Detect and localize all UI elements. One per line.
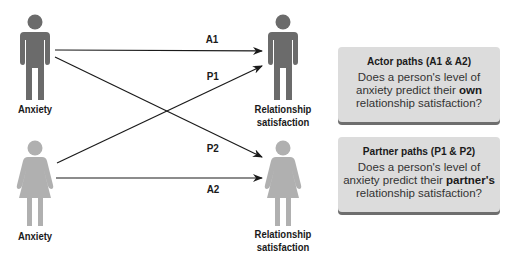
actor-box-body: Does a person's level of anxiety predict… bbox=[338, 71, 500, 110]
path-label-p2: P2 bbox=[207, 142, 219, 154]
partner-line2: anxiety predict their partner's bbox=[338, 174, 500, 187]
path-label-p1: P1 bbox=[207, 70, 219, 82]
path-label-a2: A2 bbox=[207, 183, 220, 195]
partner-line3: relationship satisfaction? bbox=[338, 187, 500, 200]
partner-line1: Does a person's level of bbox=[338, 161, 500, 174]
partner-line2-emphasis: partner's bbox=[446, 174, 495, 186]
actor-line3: relationship satisfaction? bbox=[338, 97, 500, 110]
path-label-a1: A1 bbox=[206, 33, 219, 45]
partner-box-body: Does a person's level of anxiety predict… bbox=[338, 161, 500, 200]
actor-paths-box: Actor paths (A1 & A2) Does a person's le… bbox=[338, 47, 500, 122]
actor-line2: anxiety predict their own bbox=[338, 84, 500, 97]
male-figure-icon bbox=[20, 15, 50, 101]
right-male-label: Relationship satisfaction bbox=[249, 103, 318, 129]
apim-diagram bbox=[0, 0, 514, 258]
actor-line2-emphasis: own bbox=[459, 84, 482, 96]
right-female-label-line1: Relationship bbox=[249, 228, 318, 241]
arrow-p2 bbox=[55, 57, 262, 157]
female-figure-icon bbox=[265, 141, 302, 227]
male-figure-icon bbox=[268, 15, 298, 101]
female-figure-icon bbox=[17, 141, 54, 227]
partner-line2-text: anxiety predict their bbox=[343, 174, 446, 186]
right-male-label-line1: Relationship bbox=[249, 103, 318, 116]
arrow-p1 bbox=[57, 66, 262, 163]
left-male-label: Anxiety bbox=[9, 103, 61, 116]
arrow-a1 bbox=[55, 50, 262, 51]
partner-paths-box: Partner paths (P1 & P2) Does a person's … bbox=[338, 137, 500, 212]
partner-box-title: Partner paths (P1 & P2) bbox=[348, 144, 491, 158]
right-female-label: Relationship satisfaction bbox=[249, 228, 318, 254]
actor-box-title: Actor paths (A1 & A2) bbox=[348, 54, 491, 68]
actor-line1: Does a person's level of bbox=[338, 71, 500, 84]
right-female-label-line2: satisfaction bbox=[249, 241, 318, 254]
left-female-label: Anxiety bbox=[9, 230, 61, 243]
right-male-label-line2: satisfaction bbox=[249, 116, 318, 129]
actor-line2-text: anxiety predict their bbox=[356, 84, 459, 96]
